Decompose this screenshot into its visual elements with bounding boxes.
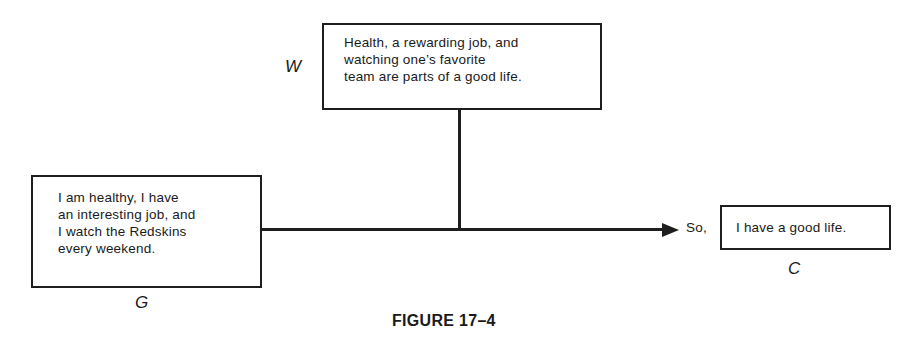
grounds-text: I am healthy, I have an interesting job,…: [58, 189, 195, 257]
claim-text: I have a good life.: [736, 219, 846, 236]
arrowhead-icon: [662, 223, 679, 237]
inference-arrow-line: [262, 228, 666, 231]
claim-connector-text: So,: [686, 220, 707, 235]
grounds-label: G: [135, 293, 148, 313]
claim-label: C: [788, 259, 800, 279]
warrant-label: W: [285, 57, 301, 77]
warrant-text: Health, a rewarding job, and watching on…: [344, 34, 522, 85]
figure-caption: FIGURE 17–4: [392, 312, 496, 330]
warrant-connector-line: [458, 109, 461, 230]
